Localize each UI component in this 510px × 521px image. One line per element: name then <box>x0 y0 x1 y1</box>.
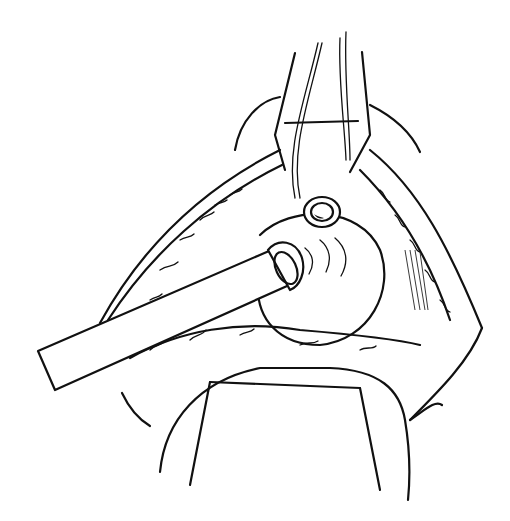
lower-retractor-drape <box>122 368 442 500</box>
cannulated-opening <box>304 197 340 227</box>
illustration <box>0 0 510 521</box>
surgical-drawing <box>0 0 510 521</box>
skin-flap-right <box>370 105 420 152</box>
suture-threads <box>292 32 350 198</box>
skin-flap-left <box>235 97 280 150</box>
retractor-blades <box>275 52 370 172</box>
